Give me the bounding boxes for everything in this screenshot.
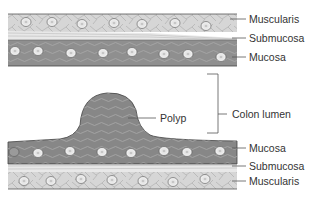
label-bottom-muscularis: Muscularis: [249, 175, 299, 187]
label-top-submucosa: Submucosa: [249, 32, 304, 44]
bottom-wall: [8, 93, 237, 189]
top-wall: [8, 14, 237, 66]
label-bottom-mucosa: Mucosa: [249, 142, 286, 154]
label-bottom-submucosa: Submucosa: [249, 160, 304, 172]
label-top-mucosa: Mucosa: [249, 51, 286, 63]
label-polyp: Polyp: [160, 112, 186, 124]
label-colon-lumen: Colon lumen: [232, 108, 291, 120]
label-top-muscularis: Muscularis: [249, 13, 299, 25]
